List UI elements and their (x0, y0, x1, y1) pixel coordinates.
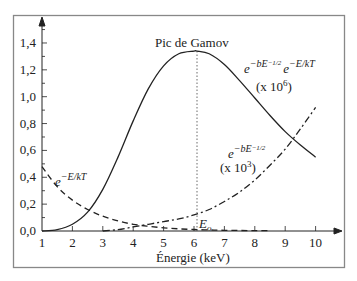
y-tick-label: 0,2 (20, 196, 36, 211)
y-tick-label: 1,4 (20, 35, 37, 50)
y-ticks: 0,00,20,40,60,81,01,21,4 (20, 30, 47, 238)
tunnel-curve (103, 107, 316, 231)
y-tick-label: 0,0 (20, 223, 36, 238)
e0-label: Eo (198, 216, 212, 233)
x-tick-label: 3 (100, 235, 107, 250)
gamow-formula: e−bE−1/2e−E/kT (244, 58, 316, 76)
peak-label: Pic de Gamov (155, 35, 229, 50)
tunnel-scale: (x 103) (220, 159, 256, 175)
x-tick-label: 10 (309, 235, 322, 250)
x-tick-label: 1 (39, 235, 46, 250)
x-tick-label: 5 (160, 235, 167, 250)
x-tick-label: 4 (130, 235, 137, 250)
x-axis-label: Énergie (keV) (156, 250, 230, 265)
y-tick-label: 0,6 (20, 142, 37, 157)
x-tick-label: 8 (252, 235, 259, 250)
gamow-scale: (x 106) (256, 78, 292, 94)
x-tick-label: 2 (69, 235, 76, 250)
x-tick-label: 9 (282, 235, 289, 250)
y-tick-label: 1,0 (20, 89, 36, 104)
y-tick-label: 0,8 (20, 116, 36, 131)
y-tick-label: 1,2 (20, 62, 36, 77)
x-axis-arrow-icon (334, 228, 342, 234)
boltzmann-formula: e−E/kT (55, 171, 88, 189)
gamow-peak-chart: 12345678910 0,00,20,40,60,81,01,21,4 Pic… (0, 0, 357, 281)
x-ticks: 12345678910 (39, 226, 322, 250)
gamow-curve (42, 51, 316, 231)
y-tick-label: 0,4 (20, 169, 37, 184)
x-tick-label: 6 (191, 235, 198, 250)
x-tick-label: 7 (221, 235, 228, 250)
y-axis-arrow-icon (39, 17, 45, 26)
